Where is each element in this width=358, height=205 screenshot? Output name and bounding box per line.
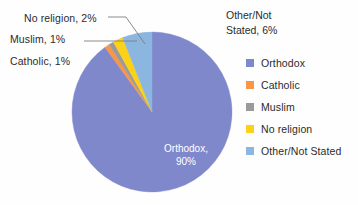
chart-legend: OrthodoxCatholicMuslimNo religionOther/N…: [246, 52, 354, 162]
data-label-other-line2: Stated, 6%: [226, 23, 277, 38]
data-label-orthodox: Orthodox, 90%: [148, 142, 224, 168]
legend-item-catholic[interactable]: Catholic: [246, 74, 354, 96]
legend-item-label: Muslim: [261, 101, 295, 113]
data-label-orthodox-line2: 90%: [148, 155, 224, 168]
legend-swatch-icon: [246, 59, 254, 67]
legend-item-label: Catholic: [261, 79, 300, 91]
legend-swatch-icon: [246, 81, 254, 89]
legend-swatch-icon: [246, 147, 254, 155]
pie-slices-group: [72, 32, 232, 192]
legend-item-other-not-stated[interactable]: Other/Not Stated: [246, 140, 354, 162]
data-label-other-not-stated: Other/Not Stated, 6%: [226, 8, 277, 38]
legend-item-label: Other/Not Stated: [261, 145, 341, 157]
legend-item-label: Orthodox: [261, 57, 305, 69]
data-label-catholic: Catholic, 1%: [10, 55, 70, 67]
legend-item-label: No religion: [261, 123, 312, 135]
legend-swatch-icon: [246, 103, 254, 111]
data-label-other-line1: Other/Not: [226, 8, 277, 23]
legend-item-muslim[interactable]: Muslim: [246, 96, 354, 118]
legend-item-no-religion[interactable]: No religion: [246, 118, 354, 140]
legend-item-orthodox[interactable]: Orthodox: [246, 52, 354, 74]
data-label-no-religion: No religion, 2%: [24, 12, 97, 24]
pie-chart-figure: No religion, 2% Muslim, 1% Catholic, 1% …: [0, 0, 358, 205]
data-label-muslim: Muslim, 1%: [10, 33, 65, 45]
legend-swatch-icon: [246, 125, 254, 133]
data-label-orthodox-line1: Orthodox,: [148, 142, 224, 155]
